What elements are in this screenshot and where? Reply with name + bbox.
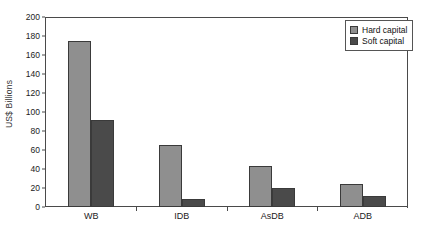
x-tick-label: ADB bbox=[318, 211, 409, 227]
y-tick-label: 180 bbox=[26, 31, 40, 41]
y-tick-label: 100 bbox=[26, 107, 40, 117]
y-tick-label: 160 bbox=[26, 50, 40, 60]
legend-swatch-icon bbox=[350, 37, 358, 45]
y-tick-label: 0 bbox=[35, 202, 40, 212]
legend-label: Hard capital bbox=[362, 25, 407, 35]
y-axis-title-text: US$ Billions bbox=[4, 79, 14, 127]
bar-asdb-hard bbox=[249, 166, 272, 207]
bar-adb-soft bbox=[363, 196, 386, 207]
y-tick-label: 40 bbox=[31, 164, 40, 174]
bar-group bbox=[227, 17, 318, 207]
bar-idb-hard bbox=[159, 145, 182, 207]
bar-group bbox=[137, 17, 228, 207]
y-tick-label: 140 bbox=[26, 69, 40, 79]
y-tick-label: 200 bbox=[26, 12, 40, 22]
x-axis-tick-labels: WBIDBAsDBADB bbox=[46, 211, 408, 227]
chart-figure: US$ Billions 200180160140120100806040200… bbox=[0, 0, 428, 234]
x-tick-label: IDB bbox=[137, 211, 228, 227]
y-tick-label: 60 bbox=[31, 145, 40, 155]
legend-item: Hard capital bbox=[350, 25, 407, 35]
y-tick-label: 20 bbox=[31, 183, 40, 193]
y-tick-label: 120 bbox=[26, 88, 40, 98]
legend-label: Soft capital bbox=[362, 36, 404, 46]
bar-asdb-soft bbox=[272, 188, 295, 207]
x-tick-label: WB bbox=[46, 211, 137, 227]
y-tick-label: 80 bbox=[31, 126, 40, 136]
y-axis-tick-labels: 200180160140120100806040200 bbox=[16, 10, 43, 214]
chart-legend: Hard capitalSoft capital bbox=[345, 20, 413, 51]
bar-group bbox=[46, 17, 137, 207]
x-tick-label: AsDB bbox=[227, 211, 318, 227]
bar-wb-soft bbox=[91, 120, 114, 207]
bar-idb-soft bbox=[182, 199, 205, 207]
legend-item: Soft capital bbox=[350, 36, 407, 46]
legend-swatch-icon bbox=[350, 26, 358, 34]
bar-adb-hard bbox=[340, 184, 363, 207]
bar-wb-hard bbox=[68, 41, 91, 207]
